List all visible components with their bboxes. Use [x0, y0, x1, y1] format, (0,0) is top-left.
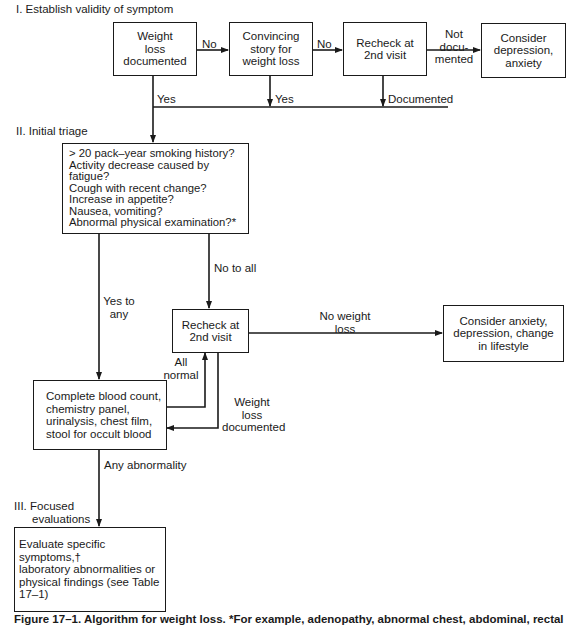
section-heading-initial-triage: II. Initial triage: [16, 125, 88, 138]
edge-label-not-documented: Not docu- mented: [433, 28, 475, 66]
edge-label-yes-to-any: Yes to any: [100, 295, 138, 320]
edge-label-any-abnormality: Any abnormality: [104, 459, 186, 472]
edge-label-no-1: No: [202, 38, 217, 51]
node-evaluate-specific: Evaluate specific symptoms,† laboratory …: [14, 527, 166, 612]
node-consider-anxiety-lifestyle: Consider anxiety, depression, change in …: [443, 305, 564, 362]
edge-label-no-to-all: No to all: [214, 262, 256, 275]
edge-label-yes-1: Yes: [157, 93, 176, 106]
edge-label-no-weight-loss: No weight loss: [313, 310, 377, 335]
node-lab-tests: Complete blood count, chemistry panel, u…: [33, 380, 167, 450]
node-recheck-second-visit-top: Recheck at 2nd visit: [343, 22, 427, 76]
node-consider-depression-anxiety: Consider depression, anxiety: [481, 23, 566, 78]
section-heading-focused-evaluations: III. Focused: [14, 500, 74, 513]
edge-label-all-normal: All normal: [163, 356, 199, 381]
section-heading-focused-evaluations-cont: evaluations: [32, 513, 90, 526]
section-heading-establish-validity: I. Establish validity of symptom: [16, 3, 173, 16]
node-triage-questions: > 20 pack–year smoking history? Activity…: [62, 143, 249, 234]
node-recheck-second-visit-middle: Recheck at 2nd visit: [172, 309, 249, 353]
figure-caption: Figure 17–1. Algorithm for weight loss. …: [14, 613, 564, 625]
edge-label-weight-loss-documented: Weight loss documented: [222, 396, 282, 434]
node-convincing-story: Convincing story for weight loss: [229, 22, 313, 76]
node-weight-loss-documented: Weight loss documented: [113, 22, 197, 76]
edge-label-documented: Documented: [388, 93, 453, 106]
edge-label-yes-2: Yes: [275, 93, 294, 106]
edge-label-no-2: No: [317, 38, 332, 51]
